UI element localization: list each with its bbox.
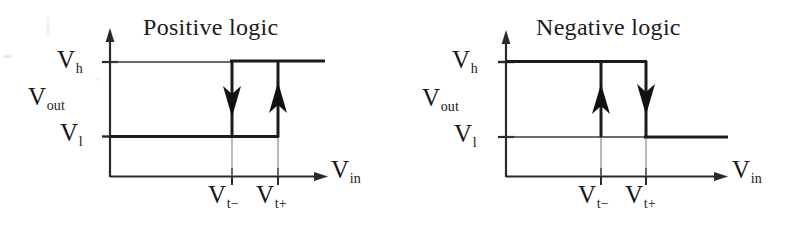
label-vl: Vl — [454, 121, 476, 146]
label-vout-sub: out — [47, 98, 65, 113]
label-vh-base: V — [452, 46, 470, 73]
label-vl-sub: l — [79, 134, 83, 149]
label-vin: Vin — [331, 157, 360, 182]
transition-falling — [223, 61, 241, 137]
label-vt-plus-base: V — [256, 181, 274, 208]
x-axis — [506, 172, 728, 181]
label-vt-minus-base: V — [208, 181, 226, 208]
label-vt-minus: Vt− — [208, 182, 238, 207]
scan-artifact — [46, 16, 50, 38]
label-vl-sub: l — [473, 135, 477, 150]
scan-artifact — [3, 55, 12, 58]
label-vin-sub: in — [350, 171, 361, 186]
label-vt-plus: Vt+ — [625, 182, 655, 207]
label-vt-plus-base: V — [625, 181, 643, 208]
label-vout-sub: out — [441, 99, 459, 114]
label-vin-base: V — [732, 156, 750, 183]
label-vout-base: V — [422, 84, 440, 111]
label-vl-base: V — [454, 120, 472, 147]
positive-logic-title: Positive logic — [143, 14, 279, 41]
x-axis — [110, 172, 328, 181]
label-vl: Vl — [60, 120, 82, 145]
hysteresis-figure: Positive logic Vh Vl Vout Vt− Vt+ Vin — [0, 0, 792, 232]
label-vin: Vin — [732, 157, 761, 182]
transition-falling — [637, 61, 655, 137]
label-vin-sub: in — [751, 171, 762, 186]
label-vt-plus: Vt+ — [256, 182, 286, 207]
label-vt-plus-sub: t+ — [275, 196, 287, 211]
transition-rising — [269, 61, 287, 137]
label-vout: Vout — [28, 84, 64, 109]
transition-rising — [592, 61, 610, 137]
negative-logic-title: Negative logic — [536, 14, 681, 41]
label-vh-sub: h — [471, 61, 478, 76]
label-vout: Vout — [422, 85, 458, 110]
y-axis — [502, 30, 511, 177]
label-vh: Vh — [57, 47, 82, 72]
label-vout-base: V — [28, 83, 46, 110]
y-axis — [106, 28, 115, 177]
label-vh-sub: h — [76, 61, 83, 76]
label-vl-base: V — [60, 119, 78, 146]
label-vh-base: V — [57, 46, 75, 73]
label-vt-minus-sub: t− — [227, 196, 239, 211]
positive-logic-panel: Positive logic Vh Vl Vout Vt− Vt+ Vin — [0, 0, 396, 232]
label-vh: Vh — [452, 47, 477, 72]
label-vt-minus: Vt− — [578, 182, 608, 207]
label-vin-base: V — [331, 156, 349, 183]
scan-artifact — [95, 77, 100, 81]
label-vt-minus-base: V — [578, 181, 596, 208]
negative-logic-panel: Negative logic Vh Vl Vout Vt− Vt+ Vin — [396, 0, 792, 232]
label-vt-minus-sub: t− — [597, 196, 609, 211]
label-vt-plus-sub: t+ — [644, 196, 656, 211]
